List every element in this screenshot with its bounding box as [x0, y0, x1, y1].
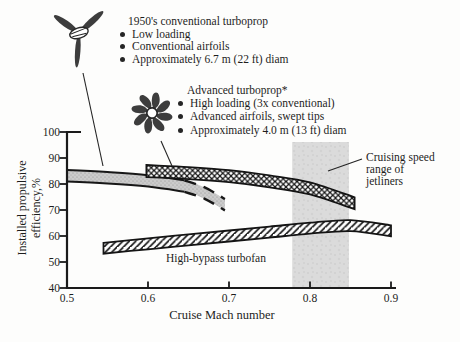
advanced-propeller-icon — [127, 88, 177, 138]
bullet-text: High loading (3x conventional) — [190, 97, 335, 110]
y-tick-label: 90 — [49, 152, 61, 164]
cruising-region — [292, 142, 349, 288]
conventional-propeller-icon — [52, 9, 105, 68]
bullet-item: Advanced airfoils, swept tips — [178, 110, 347, 123]
y-tick-label: 50 — [49, 256, 61, 268]
bullet-text: Approximately 6.7 m (22 ft) diam — [132, 53, 289, 65]
bullet-dot — [178, 101, 183, 106]
y-axis-label-line: Installed propulsive — [16, 161, 30, 256]
bullet-item: Low loading — [120, 28, 289, 40]
bullet-dot — [178, 128, 183, 133]
bullet-text: Low loading — [132, 28, 190, 40]
x-tick-label: 0.7 — [222, 292, 236, 304]
conventional-note-title: 1950's conventional turboprop — [128, 15, 289, 28]
bullet-dot — [178, 114, 183, 119]
bullet-text: Approximately 4.0 m (13 ft) diam — [190, 124, 347, 137]
bullet-dot — [120, 57, 125, 62]
bullet-item: High loading (3x conventional) — [178, 97, 347, 110]
conventional-turboprop-note: 1950's conventional turboprop Low loadin… — [120, 15, 289, 65]
conventional-leader-line — [83, 73, 103, 166]
bullet-dot — [120, 32, 125, 37]
advanced-turboprop-note: Advanced turboprop* High loading (3x con… — [178, 84, 347, 137]
turbofan-series-label: High-bypass turbofan — [166, 252, 266, 264]
cruising-note-line: range of — [366, 163, 460, 175]
y-tick-label: 70 — [49, 204, 61, 216]
cruising-speed-note: Cruising speed range of jetliners — [366, 151, 460, 187]
bullet-text: Conventional airfoils — [132, 40, 229, 52]
x-tick-label: 0.6 — [141, 292, 155, 304]
y-axis-label: Installed propulsive efficiency,% — [16, 161, 43, 256]
bullet-item: Approximately 6.7 m (22 ft) diam — [120, 53, 289, 65]
cruising-note-line: jetliners — [366, 175, 460, 187]
y-tick-label: 40 — [49, 282, 61, 294]
advanced-leader-line — [161, 141, 172, 166]
y-tick-label: 60 — [49, 230, 61, 242]
x-tick-label: 0.9 — [384, 292, 398, 304]
x-tick-label: 0.5 — [60, 292, 74, 304]
y-tick-label: 100 — [43, 126, 60, 138]
x-axis-label: Cruise Mach number — [169, 308, 275, 323]
bullet-item: Conventional airfoils — [120, 40, 289, 52]
figure-canvas: 1950's conventional turboprop Low loadin… — [0, 0, 460, 342]
y-tick-label: 80 — [49, 178, 61, 190]
x-tick-label: 0.8 — [303, 292, 317, 304]
bullet-text: Advanced airfoils, swept tips — [190, 110, 324, 123]
cruising-note-line: Cruising speed — [366, 151, 460, 163]
bullet-dot — [120, 44, 125, 49]
bullet-item: Approximately 4.0 m (13 ft) diam — [178, 124, 347, 137]
y-axis-label-line: efficiency,% — [29, 161, 43, 256]
advanced-note-title: Advanced turboprop* — [187, 84, 347, 97]
